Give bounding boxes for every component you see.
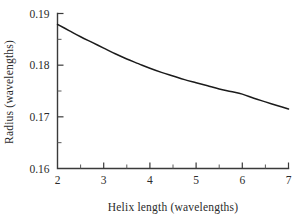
x-axis-major-ticks (104, 163, 289, 169)
x-axis-tick-label: 6 (239, 174, 245, 186)
y-axis-tick-labels: 0.160.170.180.19 (29, 8, 49, 175)
axis-lines (58, 14, 289, 169)
data-curve-radius (58, 24, 289, 109)
x-axis-tick-label: 4 (147, 174, 153, 186)
y-axis-title: Radius (wavelengths) (3, 40, 16, 144)
x-axis-tick-label: 3 (101, 174, 107, 186)
x-axis-tick-label: 2 (55, 174, 61, 186)
x-axis-tick-label: 5 (193, 174, 199, 186)
y-axis-tick-label: 0.19 (29, 8, 49, 20)
x-axis-tick-label: 7 (286, 174, 292, 186)
chart-figure: 0.160.170.180.19 234567 Helix length (wa… (0, 0, 296, 224)
y-axis-tick-label: 0.16 (29, 163, 49, 175)
x-axis-tick-labels: 234567 (55, 174, 292, 186)
line-chart: 0.160.170.180.19 234567 Helix length (wa… (0, 0, 296, 224)
plot-axes (58, 14, 289, 169)
x-axis-title: Helix length (wavelengths) (108, 201, 238, 214)
y-axis-major-ticks (58, 14, 64, 117)
y-axis-tick-label: 0.17 (29, 111, 49, 123)
y-axis-tick-label: 0.18 (29, 59, 49, 71)
